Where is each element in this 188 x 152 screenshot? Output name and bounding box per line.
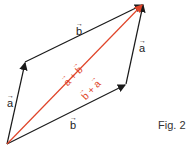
label-a-left: a	[7, 98, 13, 109]
vector-b-symbol: b	[76, 26, 82, 37]
vector-b-symbol: b	[70, 120, 76, 131]
vector-b-bottom	[7, 85, 125, 144]
vector-a-symbol: a	[139, 43, 145, 54]
vector-a-symbol: a	[7, 98, 13, 109]
vector-b-top	[25, 5, 142, 62]
label-b-top: b	[76, 26, 82, 37]
figure-caption: Fig. 2	[158, 119, 186, 131]
label-b-bottom: b	[70, 120, 76, 131]
label-a-right: a	[139, 43, 145, 54]
